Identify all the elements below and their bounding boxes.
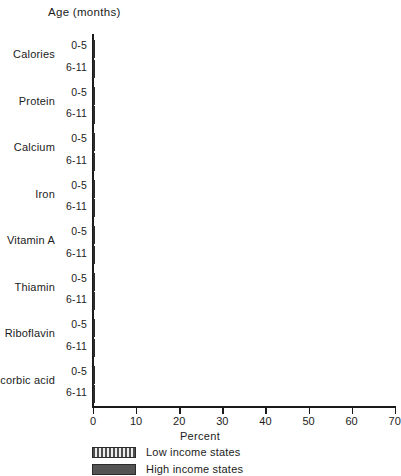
bar-low-income-vitamin-a-6-11 xyxy=(93,246,162,255)
age-label-vitamin-a-6-11: 6-11 xyxy=(57,247,87,259)
x-tick-label-40: 40 xyxy=(259,415,271,427)
bar-low-income-riboflavin-6-11 xyxy=(93,339,102,348)
bar-low-income-vitamin-a-0-5 xyxy=(93,226,149,235)
x-tick-70 xyxy=(395,406,396,414)
bar-low-income-thiamin-6-11 xyxy=(93,292,209,301)
bar-low-income-calcium-6-11 xyxy=(93,153,102,162)
bar-low-income-calcium-0-5 xyxy=(93,133,138,142)
age-label-protein-0-5: 0-5 xyxy=(57,86,87,98)
x-tick-30 xyxy=(222,406,223,414)
bar-high-income-calories-6-11 xyxy=(93,69,149,78)
age-label-calories-0-5: 0-5 xyxy=(57,39,87,51)
bar-low-income-iron-6-11 xyxy=(93,199,390,208)
bar-high-income-ascorbic-acid-0-5 xyxy=(93,375,242,384)
age-label-riboflavin-0-5: 0-5 xyxy=(57,318,87,330)
x-axis-line xyxy=(92,406,396,408)
bar-high-income-thiamin-6-11 xyxy=(93,301,179,310)
bar-low-income-protein-6-11 xyxy=(93,106,112,115)
x-tick-label-70: 70 xyxy=(389,415,401,427)
bar-high-income-vitamin-a-0-5 xyxy=(93,235,134,244)
bar-high-income-thiamin-0-5 xyxy=(93,282,97,291)
bar-high-income-protein-0-5 xyxy=(93,96,125,105)
age-label-riboflavin-6-11: 6-11 xyxy=(57,340,87,352)
bar-high-income-protein-6-11 xyxy=(93,115,106,124)
bar-low-income-iron-0-5 xyxy=(93,180,298,189)
bar-low-income-ascorbic-acid-0-5 xyxy=(93,366,309,375)
legend-swatch-low-income-icon xyxy=(92,447,136,458)
legend: Low income states High income states xyxy=(92,446,372,476)
x-tick-label-50: 50 xyxy=(302,415,314,427)
age-label-ascorbic-acid-6-11: 6-11 xyxy=(57,386,87,398)
bar-high-income-calcium-6-11 xyxy=(93,162,102,171)
bar-high-income-calories-0-5 xyxy=(93,49,149,58)
legend-label-high-income: High income states xyxy=(146,463,243,475)
age-label-vitamin-a-0-5: 0-5 xyxy=(57,225,87,237)
category-label-calcium: Calcium xyxy=(14,141,55,153)
bar-high-income-iron-6-11 xyxy=(93,208,352,217)
age-months-header: Age (months) xyxy=(48,6,121,18)
bar-high-income-vitamin-a-6-11 xyxy=(93,255,153,264)
category-label-riboflavin: Riboflavin xyxy=(5,327,55,339)
legend-swatch-high-income-icon xyxy=(92,464,136,475)
age-label-calcium-0-5: 0-5 xyxy=(57,132,87,144)
x-tick-label-60: 60 xyxy=(345,415,357,427)
bar-low-income-protein-0-5 xyxy=(93,87,147,96)
category-label-iron: Iron xyxy=(35,188,55,200)
age-label-calcium-6-11: 6-11 xyxy=(57,154,87,166)
age-label-ascorbic-acid-0-5: 0-5 xyxy=(57,365,87,377)
bar-high-income-ascorbic-acid-6-11 xyxy=(93,394,309,403)
x-tick-label-20: 20 xyxy=(173,415,185,427)
category-label-protein: Protein xyxy=(19,95,55,107)
bar-low-income-riboflavin-0-5 xyxy=(93,319,104,328)
bar-high-income-riboflavin-0-5 xyxy=(93,328,104,337)
age-label-protein-6-11: 6-11 xyxy=(57,107,87,119)
bar-high-income-riboflavin-6-11 xyxy=(93,348,104,357)
bar-high-income-iron-0-5 xyxy=(93,189,265,198)
age-label-iron-0-5: 0-5 xyxy=(57,179,87,191)
x-tick-10 xyxy=(136,406,137,414)
x-tick-0 xyxy=(93,406,94,414)
x-tick-label-10: 10 xyxy=(130,415,142,427)
category-label-ascorbic-acid: Ascorbic acid xyxy=(0,374,55,386)
legend-item-high-income: High income states xyxy=(92,463,372,476)
bar-low-income-thiamin-0-5 xyxy=(93,273,160,282)
bar-low-income-ascorbic-acid-6-11 xyxy=(93,385,321,394)
x-tick-label-30: 30 xyxy=(216,415,228,427)
legend-label-low-income: Low income states xyxy=(146,446,241,458)
x-tick-40 xyxy=(265,406,266,414)
x-tick-50 xyxy=(309,406,310,414)
category-label-vitamin-a: Vitamin A xyxy=(7,234,55,246)
legend-item-low-income: Low income states xyxy=(92,446,372,460)
x-axis-label: Percent xyxy=(0,430,400,442)
bar-low-income-calories-0-5 xyxy=(93,40,218,49)
x-tick-20 xyxy=(179,406,180,414)
age-label-thiamin-6-11: 6-11 xyxy=(57,293,87,305)
age-label-thiamin-0-5: 0-5 xyxy=(57,272,87,284)
x-tick-label-0: 0 xyxy=(90,415,96,427)
age-label-iron-6-11: 6-11 xyxy=(57,200,87,212)
x-tick-60 xyxy=(352,406,353,414)
bar-low-income-calories-6-11 xyxy=(93,60,192,69)
category-label-thiamin: Thiamin xyxy=(14,281,55,293)
bar-high-income-calcium-0-5 xyxy=(93,142,127,151)
age-label-calories-6-11: 6-11 xyxy=(57,61,87,73)
category-label-calories: Calories xyxy=(13,48,55,60)
